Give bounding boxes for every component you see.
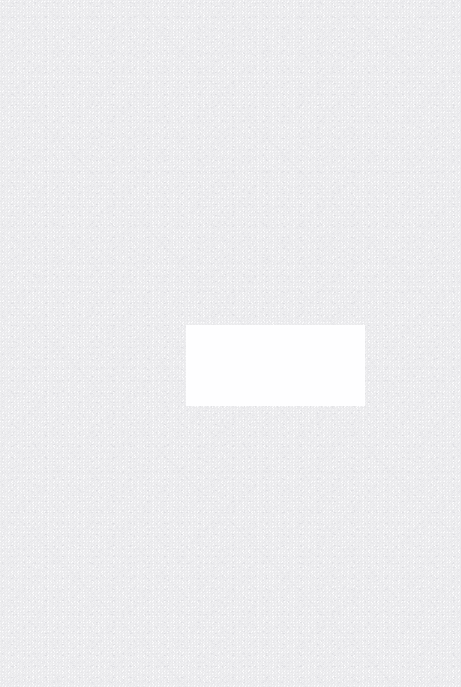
blank-content-panel (186, 325, 365, 406)
screenshot-canvas (0, 0, 461, 687)
